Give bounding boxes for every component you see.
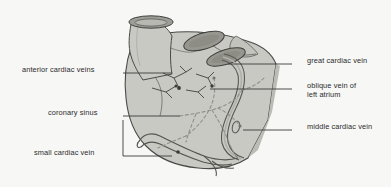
anterior-vein-node-3: [175, 85, 178, 88]
anterior-vein-node-1: [177, 86, 181, 90]
middle-vein-node: [238, 124, 241, 127]
coronary-sinus-ostium: [137, 140, 141, 147]
label-middle-cardiac-vein: middle cardiac vein: [307, 122, 372, 131]
label-coronary-sinus: coronary sinus: [48, 108, 97, 117]
label-small-cardiac-vein: small cardiac vein: [34, 148, 95, 157]
label-oblique-vein-of-left-atrium: oblique vein of left atrium: [307, 81, 356, 100]
heart-anatomy-figure: anterior cardiac veins coronary sinus sm…: [0, 0, 391, 187]
anterior-vein-node-2: [210, 84, 213, 87]
small-cardiac-vein-node: [176, 150, 180, 154]
oblique-vein-origin-node: [212, 76, 215, 79]
aorta-cut-end-lumen: [135, 19, 167, 26]
label-oblique-vein-line-1: oblique vein of: [307, 81, 356, 90]
label-great-cardiac-vein: great cardiac vein: [307, 56, 367, 65]
label-oblique-vein-line-2: left atrium: [307, 90, 356, 99]
label-anterior-cardiac-veins: anterior cardiac veins: [22, 65, 94, 74]
